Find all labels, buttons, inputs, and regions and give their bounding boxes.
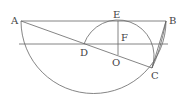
segment-bc	[152, 21, 166, 68]
label-d: D	[80, 47, 88, 58]
label-o: O	[112, 57, 120, 68]
label-f: F	[121, 32, 128, 43]
label-a: A	[10, 15, 19, 26]
diagram-canvas: A B E F D O C	[0, 0, 188, 100]
geometry-diagram: A B E F D O C	[0, 0, 188, 100]
segment-ac	[21, 21, 152, 68]
large-semicircle	[21, 21, 166, 94]
label-c: C	[151, 70, 159, 81]
label-b: B	[169, 15, 176, 26]
label-e: E	[113, 9, 120, 20]
